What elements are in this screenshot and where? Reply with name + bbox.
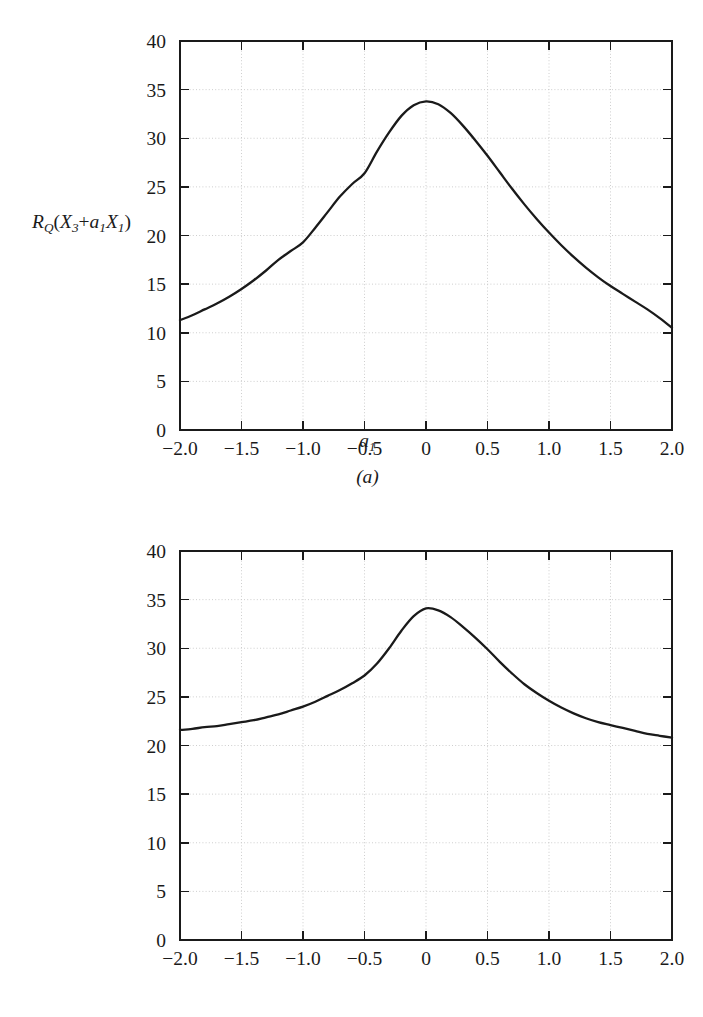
panel-a-caption: (a) bbox=[0, 466, 703, 488]
plot-a-x-axis-label: a1 bbox=[0, 430, 703, 455]
plot-a-ytick-label: 5 bbox=[156, 371, 166, 392]
plot-b-xtick-label: 1.0 bbox=[537, 948, 561, 969]
plot-a-ytick-label: 10 bbox=[147, 323, 167, 344]
figure-panel-a: 0510152025303540−2.0−1.5−1.0−0.500.51.01… bbox=[0, 0, 703, 510]
plot-b-ytick-label: 25 bbox=[147, 687, 167, 708]
plot-b-ytick-label: 10 bbox=[147, 833, 167, 854]
plot-b-ticklabels: 0510152025303540−2.0−1.5−1.0−0.500.51.01… bbox=[147, 541, 685, 969]
plot-b-ytick-label: 20 bbox=[147, 736, 167, 757]
plot-a-gridlines bbox=[180, 41, 672, 430]
plot-b-ytick-label: 30 bbox=[147, 638, 167, 659]
plot-a-ytick-label: 40 bbox=[147, 31, 167, 52]
plot-b-xtick-label: 1.5 bbox=[598, 948, 622, 969]
plot-a-ytick-label: 15 bbox=[147, 274, 167, 295]
figure-panel-b: 0510152025303540−2.0−1.5−1.0−0.500.51.01… bbox=[0, 510, 703, 1017]
plot-b-ytick-label: 15 bbox=[147, 784, 167, 805]
plot-a-ytick-label: 35 bbox=[147, 80, 167, 101]
plot-a-ytick-label: 30 bbox=[147, 128, 167, 149]
plot-b-ytick-label: 5 bbox=[156, 881, 166, 902]
plot-b-xtick-label: −0.5 bbox=[347, 948, 382, 969]
plot-a-ytick-label: 25 bbox=[147, 177, 167, 198]
plot-b-xtick-label: 2.0 bbox=[660, 948, 684, 969]
plot-b-xtick-label: −1.0 bbox=[285, 948, 320, 969]
plot-b-xtick-label: 0.5 bbox=[475, 948, 499, 969]
plot-b-ytick-label: 35 bbox=[147, 590, 167, 611]
plot-b: 0510152025303540−2.0−1.5−1.0−0.500.51.01… bbox=[0, 510, 703, 1017]
plot-b-xtick-label: −1.5 bbox=[224, 948, 259, 969]
plot-b-xtick-label: −2.0 bbox=[162, 948, 197, 969]
plot-a-y-axis-label: RQ(X3+a1X1) bbox=[32, 211, 131, 236]
plot-b-ytick-label: 40 bbox=[147, 541, 167, 562]
plot-a-ytick-label: 20 bbox=[147, 226, 167, 247]
plot-a-ticklabels: 0510152025303540−2.0−1.5−1.0−0.500.51.01… bbox=[147, 31, 685, 459]
plot-b-xtick-label: 0 bbox=[421, 948, 431, 969]
